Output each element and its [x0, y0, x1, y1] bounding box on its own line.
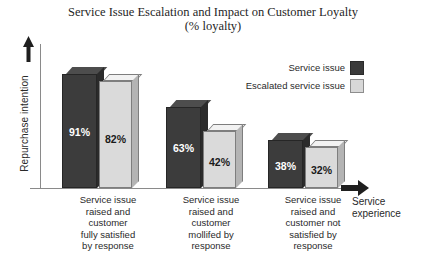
- bar-service-issue-3[interactable]: 38%: [268, 133, 303, 188]
- category-label-line: raised and: [253, 206, 373, 218]
- bar-side-face: [236, 124, 243, 188]
- category-label-line: by response: [48, 240, 168, 252]
- category-label-line: customer not: [253, 217, 373, 229]
- bar-value-label: 82%: [99, 133, 132, 145]
- bar-group-1: 91% 82%: [62, 60, 154, 188]
- bar-value-label: 38%: [268, 160, 303, 172]
- bar-escalated-service-issue-2[interactable]: 42%: [203, 124, 236, 188]
- bar-service-issue-2[interactable]: 63%: [166, 100, 201, 188]
- category-label-line: satisfied by: [253, 229, 373, 241]
- plot-area: Repurchase intention Service experience …: [0, 0, 426, 270]
- category-label-line: fully satisfied: [48, 229, 168, 241]
- category-label-line: response: [253, 240, 373, 252]
- bar-value-label: 91%: [62, 126, 97, 138]
- category-label-3: Service issue raised and customer not sa…: [253, 194, 373, 252]
- bar-value-label: 63%: [166, 142, 201, 154]
- category-label-line: customer: [48, 217, 168, 229]
- bar-group-3: 38% 32%: [268, 60, 360, 188]
- bar-service-issue-1[interactable]: 91%: [62, 67, 97, 188]
- bar-side-face: [132, 74, 139, 188]
- category-label-line: Service issue: [48, 194, 168, 206]
- y-axis-title: Repurchase intention: [19, 54, 30, 194]
- bar-value-label: 42%: [203, 156, 236, 168]
- y-axis-line: [40, 44, 41, 189]
- bar-group-2: 63% 42%: [166, 60, 258, 188]
- bar-side-face: [338, 140, 345, 188]
- bar-escalated-service-issue-1[interactable]: 82%: [99, 74, 132, 188]
- category-label-line: raised and: [48, 206, 168, 218]
- bar-escalated-service-issue-3[interactable]: 32%: [305, 140, 338, 188]
- category-label-1: Service issue raised and customer fully …: [48, 194, 168, 252]
- category-label-line: Service issue: [253, 194, 373, 206]
- bar-value-label: 32%: [305, 164, 338, 176]
- x-axis-line: [30, 188, 348, 189]
